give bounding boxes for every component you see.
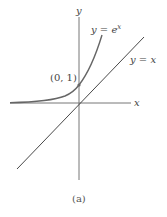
point-label: (0, 1) bbox=[50, 72, 77, 83]
exp-curve-label: y = ex bbox=[90, 23, 121, 35]
x-axis-label: x bbox=[134, 97, 140, 108]
point-marker bbox=[77, 83, 80, 86]
y-axis-label: y bbox=[75, 5, 82, 16]
exp-label-sup: x bbox=[117, 23, 121, 31]
figure: y x y = ex y = x (0, 1) (a) bbox=[0, 0, 167, 217]
exponential-curve bbox=[10, 35, 102, 103]
identity-line-label: y = x bbox=[129, 54, 156, 65]
exp-label-base: y = e bbox=[90, 24, 117, 35]
caption: (a) bbox=[72, 193, 86, 204]
